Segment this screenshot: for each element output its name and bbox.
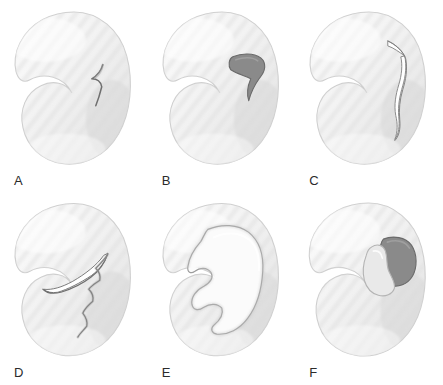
panel-a: A — [0, 0, 148, 193]
panel-label-e: E — [162, 366, 171, 379]
panel-label-a: A — [14, 174, 23, 187]
meniscus-illustration-c — [295, 0, 443, 193]
meniscus-body-b — [148, 0, 296, 193]
panel-label-d: D — [14, 366, 24, 379]
meniscal-tear-figure: A — [0, 0, 443, 385]
meniscus-illustration-f — [295, 193, 443, 385]
meniscus-illustration-d — [0, 193, 148, 385]
meniscus-illustration-b — [148, 0, 296, 193]
panel-label-c: C — [309, 174, 319, 187]
meniscus-body-a — [0, 0, 148, 193]
panel-e: E — [148, 193, 296, 385]
panel-c: C — [295, 0, 443, 193]
panel-b: B — [148, 0, 296, 193]
meniscus-body-d — [0, 193, 148, 385]
panel-label-b: B — [162, 174, 171, 187]
meniscus-illustration-a — [0, 0, 148, 193]
panel-d: D — [0, 193, 148, 385]
panel-label-f: F — [309, 366, 317, 379]
meniscus-illustration-e — [148, 193, 296, 385]
meniscus-body-c — [295, 0, 443, 193]
panel-f: F — [295, 193, 443, 385]
panel-grid: A — [0, 0, 443, 385]
